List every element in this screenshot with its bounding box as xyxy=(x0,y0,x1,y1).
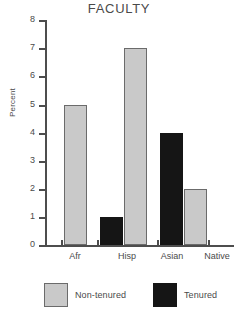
y-tick-4 xyxy=(39,133,46,135)
y-tick-8 xyxy=(39,20,46,22)
bar-afr-non-tenured xyxy=(64,105,87,245)
chart-legend: Non-tenured Tenured xyxy=(0,282,238,312)
x-tick-label-asian: Asian xyxy=(149,252,195,261)
y-tick-6 xyxy=(39,76,46,78)
y-tick-1 xyxy=(39,217,46,219)
legend-item-non-tenured: Non-tenured xyxy=(44,282,126,308)
legend-item-tenured: Tenured xyxy=(153,282,217,308)
bar-asian-non-tenured xyxy=(184,189,207,245)
x-tick-2 xyxy=(157,240,159,246)
bar-hisp-non-tenured xyxy=(124,48,147,245)
legend-swatch-non-tenured xyxy=(44,283,68,307)
y-tick-label-7: 7 xyxy=(20,43,35,52)
x-tick-3 xyxy=(208,240,210,246)
bar-asian-tenured xyxy=(160,133,183,245)
y-tick-label-1: 1 xyxy=(20,212,35,221)
y-tick-2 xyxy=(39,189,46,191)
x-axis-line xyxy=(45,245,234,247)
y-tick-label-3: 3 xyxy=(20,156,35,165)
x-tick-0 xyxy=(61,240,63,246)
y-tick-7 xyxy=(39,48,46,50)
legend-swatch-tenured xyxy=(153,283,177,307)
y-tick-label-2: 2 xyxy=(20,184,35,193)
y-tick-label-8: 8 xyxy=(20,15,35,24)
y-tick-5 xyxy=(39,105,46,107)
legend-label-non-tenured: Non-tenured xyxy=(75,290,126,300)
y-axis-label: Percent xyxy=(8,73,17,133)
x-tick-1 xyxy=(97,240,99,246)
y-tick-label-6: 6 xyxy=(20,71,35,80)
y-tick-label-5: 5 xyxy=(20,100,35,109)
y-tick-0 xyxy=(39,245,46,247)
legend-label-tenured: Tenured xyxy=(184,290,217,300)
x-tick-label-afr: Afr xyxy=(52,252,98,261)
chart-title: FACULTY xyxy=(0,1,238,16)
faculty-bar-chart: FACULTY Percent 8 7 6 5 4 3 2 1 0 Afr Hi… xyxy=(0,0,238,315)
x-tick-label-native: Native xyxy=(194,252,238,261)
y-tick-label-4: 4 xyxy=(20,128,35,137)
y-tick-3 xyxy=(39,161,46,163)
bar-hisp-tenured xyxy=(100,217,123,245)
x-tick-label-hisp: Hisp xyxy=(104,252,150,261)
y-tick-label-0: 0 xyxy=(20,240,35,249)
